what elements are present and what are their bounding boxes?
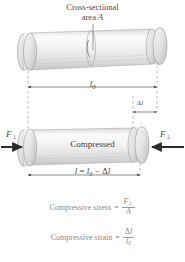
stress-equals: = [114, 203, 119, 212]
delta-length-label: Δl [125, 99, 155, 107]
eq-l0-sub: 0 [89, 170, 92, 177]
area-label-prefix: area [82, 12, 98, 22]
cylinder-left-cap-top [18, 33, 37, 71]
stress-numerator: F⊥ [122, 198, 136, 206]
delta-l-symbol: l [141, 99, 143, 107]
eq-equals: = [79, 166, 84, 176]
strain-fraction: Δl l0 [123, 228, 134, 247]
original-length-label: l0 [0, 79, 185, 90]
stress-denominator: A [124, 208, 133, 216]
strain-denominator: l0 [124, 238, 133, 246]
compressive-stress-formula: Compressive stress = F⊥ A [0, 198, 185, 217]
cross-sectional-line1: Cross-sectional [66, 2, 118, 12]
cross-sectional-area-label: Cross-sectional area A [0, 2, 185, 22]
eq-l: l [75, 166, 78, 176]
cylinder-right-cap-top [146, 28, 167, 66]
cylinder-body-top [30, 29, 152, 70]
eq-minus: − [95, 166, 100, 176]
compressed-label: Compressed [0, 139, 185, 149]
stress-label: Compressive stress [50, 203, 112, 212]
stress-fraction: F⊥ A [122, 198, 136, 217]
l0-subscript: 0 [92, 83, 95, 90]
strain-label: Compressive strain [51, 233, 113, 242]
eq-delta-l: l [108, 166, 111, 176]
strain-numerator: Δl [123, 228, 134, 236]
stress-strain-diagram [0, 0, 185, 262]
strain-equals: = [115, 233, 120, 242]
compressed-length-equation: l = l0 − Δl [0, 166, 185, 177]
area-symbol: A [98, 12, 103, 22]
unstressed-cylinder [18, 24, 168, 71]
compressive-strain-formula: Compressive strain = Δl l0 [0, 228, 185, 247]
